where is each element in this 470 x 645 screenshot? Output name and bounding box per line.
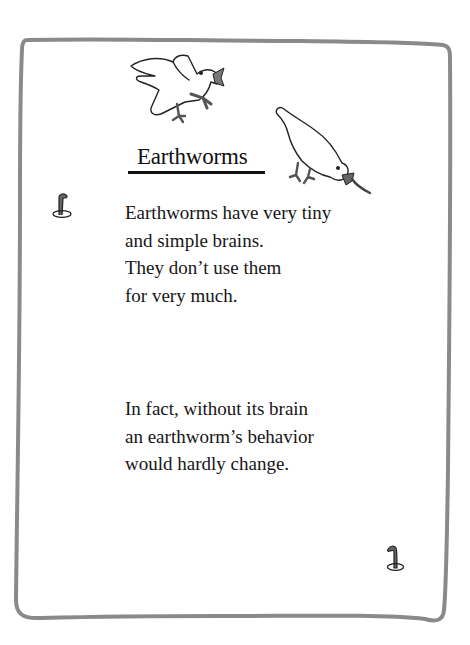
paragraph-1: Earthworms have very tiny and simple bra… bbox=[125, 199, 331, 309]
worm-icon-bottom-right bbox=[384, 544, 406, 572]
title-underline bbox=[128, 171, 265, 174]
paragraph-line: and simple brains. bbox=[125, 227, 331, 255]
paragraph-line: for very much. bbox=[125, 282, 331, 310]
paragraph-line: Earthworms have very tiny bbox=[125, 199, 331, 227]
paragraph-line: They don’t use them bbox=[125, 254, 331, 282]
page-title: Earthworms bbox=[137, 144, 247, 170]
flying-bird-with-worm-icon bbox=[125, 50, 230, 125]
paragraph-line: would hardly change. bbox=[125, 450, 314, 478]
paragraph-2: In fact, without its brain an earthworm’… bbox=[125, 395, 314, 478]
pecking-bird-pulling-worm-icon bbox=[270, 105, 375, 195]
worm-icon-left bbox=[50, 191, 74, 219]
paragraph-line: In fact, without its brain bbox=[125, 395, 314, 423]
paragraph-line: an earthworm’s behavior bbox=[125, 423, 314, 451]
